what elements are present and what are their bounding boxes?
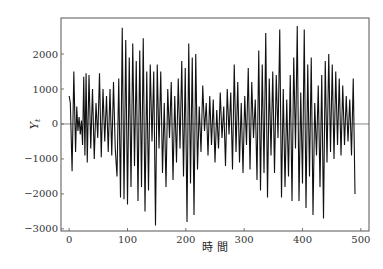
x-tick-label: 200 xyxy=(176,234,195,245)
y-tick-label: −1000 xyxy=(24,153,58,164)
x-axis-label: 時 間 xyxy=(202,241,228,254)
y-tick-label: −2000 xyxy=(24,188,58,199)
x-tick-label: 400 xyxy=(293,234,312,245)
y-tick-label: −3000 xyxy=(24,223,58,234)
y-axis-label: Yt xyxy=(28,118,42,129)
series-line-0 xyxy=(69,26,355,225)
x-tick-label: 0 xyxy=(66,234,72,245)
x-tick-label: 100 xyxy=(118,234,137,245)
chart: 0100200300400500 −3000−2000−100001000200… xyxy=(0,0,383,269)
y-tick-label: 1000 xyxy=(33,84,58,95)
y-tick-label: 0 xyxy=(52,118,58,129)
x-tick-label: 500 xyxy=(351,234,370,245)
x-tick-label: 300 xyxy=(235,234,254,245)
y-tick-label: 2000 xyxy=(33,49,58,60)
